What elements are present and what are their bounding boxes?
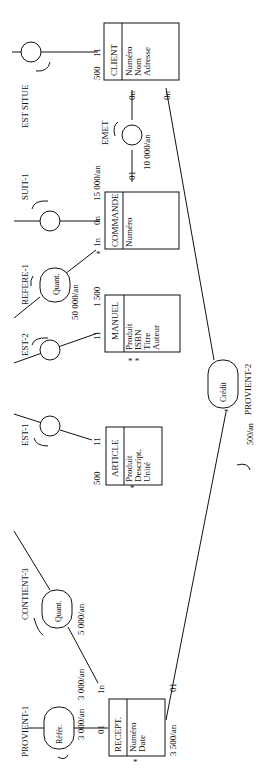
commande-volume: 15 000/an: [92, 165, 102, 201]
arrow-emet-icon: [114, 122, 118, 136]
relation-provient2-volume: 500/an: [246, 423, 255, 445]
link-est1-left: [14, 414, 42, 423]
relation-emet-label: EMET: [100, 120, 110, 145]
relation-emet[interactable]: [122, 125, 142, 145]
provient2-key-marker: *: [224, 407, 229, 417]
relation-suit1[interactable]: [40, 211, 60, 231]
client-attr-3: Adresse: [142, 47, 152, 76]
relation-provient1-volume: 3 000/an: [76, 708, 86, 740]
relation-refere1-prop: Quant.: [52, 273, 61, 295]
entity-commande-name: COMMANDE: [110, 193, 120, 247]
relation-provient2-label: PROVIENT-2: [243, 364, 253, 415]
arrow-suit1-icon: [32, 201, 48, 209]
card-client-est-situe: 11: [92, 48, 102, 57]
relation-est2-label: EST-2: [20, 333, 30, 356]
link-credit-recept: [166, 412, 226, 720]
arrow-est-situe-icon: [36, 62, 50, 71]
card-commande-suit: 0n: [92, 216, 102, 226]
contient-recept-volume: 3 000/an: [76, 668, 86, 700]
recept-key-marker: *: [133, 757, 138, 767]
client-volume: 500: [92, 66, 102, 80]
relation-provient1-prop: Référ.: [55, 725, 64, 744]
card-client-emet: 0n: [127, 91, 137, 101]
article-attr-3: Unité: [142, 462, 152, 482]
relation-provient2-prop: Crédit: [219, 381, 228, 402]
arrow-refere1-icon: [31, 276, 33, 286]
card-recept-provient2: 01: [168, 683, 178, 692]
article-key-marker: *: [130, 483, 135, 493]
relation-contient3-volume: 5 000/an: [76, 603, 86, 635]
relation-provient1-label: PROVIENT-1: [20, 706, 30, 757]
entity-manuel-name: MANUEL: [110, 302, 120, 341]
relation-refere1-label: REFERE-1: [20, 264, 30, 305]
relation-contient3-label: CONTIENT-3: [20, 568, 30, 620]
commande-key-marker: *: [96, 249, 101, 259]
entity-article-name: ARTICLE: [110, 439, 120, 477]
relation-est-situe[interactable]: [21, 42, 41, 62]
manuel-key-marker: * *: [128, 356, 140, 366]
commande-attr-1: Numéro: [124, 217, 134, 247]
entity-client-name: CLIENT: [109, 44, 119, 76]
manuel-volume: 1 500: [92, 286, 102, 307]
arrow-est1-icon: [34, 438, 48, 446]
card-commande-refere: 1n: [92, 238, 102, 248]
arrow-provient2-icon: [237, 464, 250, 470]
relation-refere1-volume: 50 000/an: [70, 284, 80, 320]
card-commande-emet: 01: [127, 171, 137, 180]
relation-est1-label: EST-1: [20, 423, 30, 446]
card-recept-contient: 1n: [96, 685, 106, 695]
relation-est2[interactable]: [40, 340, 60, 360]
arrow-provient1-icon: [58, 755, 68, 759]
card-manuel-est2: 11: [92, 331, 102, 340]
entity-recept-name: RECEPT.: [113, 717, 123, 752]
relation-suit1-label: SUIT-1: [20, 173, 30, 200]
relation-est1[interactable]: [40, 416, 60, 436]
card-article-est1: 11: [92, 437, 102, 446]
card-recept-provient1: 01: [96, 725, 106, 734]
article-volume: 500: [92, 471, 102, 485]
manuel-attr-4: Auteur: [151, 325, 161, 350]
relation-emet-volume: 10 000/an: [142, 134, 152, 170]
card-client-provient2: 0n: [162, 91, 172, 101]
link-refere-commande: [65, 250, 96, 274]
link-est1-article: [60, 430, 92, 440]
relation-contient3-prop: Quant.: [54, 600, 63, 622]
recept-attr-2: Date: [137, 735, 147, 752]
recept-volume: 3 500/an: [168, 724, 178, 756]
relation-est-situe-label: EST SITUE: [20, 84, 30, 128]
arrow-contient3-icon: [34, 618, 43, 635]
